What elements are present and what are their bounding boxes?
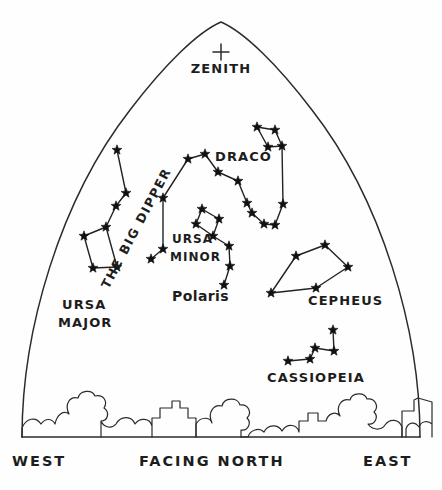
draco-label: DRACO — [215, 149, 272, 164]
star-marker — [233, 176, 243, 185]
constellation-cepheus — [266, 240, 353, 297]
star-marker — [266, 288, 276, 297]
star-marker — [270, 220, 280, 229]
star-marker — [291, 251, 301, 260]
constellation-draco — [146, 122, 288, 263]
star-marker — [329, 346, 339, 355]
star-chart: ZENITH THE BIG DIPPER URSA MAJOR DRACO U… — [0, 0, 442, 490]
constellation-cassiopeia — [283, 325, 339, 365]
cassiopeia-label: CASSIOPEIA — [267, 370, 365, 385]
star-marker — [252, 122, 262, 131]
skyline-west-tree — [196, 399, 249, 437]
cepheus-label: CEPHEUS — [308, 293, 383, 308]
star-marker — [310, 343, 320, 352]
constellation-link — [117, 150, 126, 193]
star-marker — [311, 283, 321, 292]
star-marker — [242, 198, 252, 207]
constellation-link — [282, 146, 283, 204]
star-marker — [225, 261, 235, 270]
constellation-link — [316, 267, 348, 288]
east-label: EAST — [363, 453, 412, 469]
facing-north-label: FACING NORTH — [139, 453, 285, 469]
polaris-label: Polaris — [172, 288, 229, 304]
star-marker — [278, 199, 288, 208]
star-marker — [305, 354, 315, 363]
star-marker — [270, 125, 280, 134]
constellation-ursa-minor — [191, 204, 235, 289]
west-label: WEST — [12, 453, 66, 469]
ursa-major-label: URSA — [62, 297, 106, 312]
star-marker — [121, 188, 131, 197]
star-marker — [183, 154, 193, 163]
constellation-link — [271, 256, 296, 293]
star-marker — [283, 356, 293, 365]
star-marker — [214, 214, 224, 223]
ursa-minor-label-line2: MINOR — [170, 250, 221, 264]
ursa-major-label-line2: MAJOR — [58, 315, 112, 330]
constellation-link — [325, 245, 348, 267]
skyline-east — [241, 394, 402, 437]
zenith-marker — [213, 44, 229, 60]
zenith-label: ZENITH — [191, 61, 251, 76]
ursa-minor-label: URSA — [172, 232, 213, 246]
star-marker — [200, 149, 210, 158]
star-marker — [79, 231, 89, 240]
skyline-west — [22, 391, 196, 437]
skyline-east-tower — [402, 398, 432, 437]
sky-dome-svg: ZENITH THE BIG DIPPER URSA MAJOR DRACO U… — [0, 0, 442, 490]
star-marker — [101, 222, 111, 231]
star-marker — [88, 263, 98, 272]
constellation-link — [84, 236, 93, 268]
